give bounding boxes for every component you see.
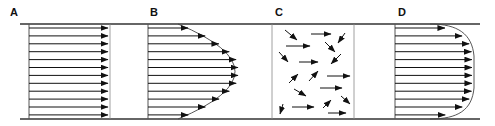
flow-arrow-icon — [294, 89, 306, 96]
flow-arrow-icon — [323, 100, 331, 108]
flow-arrow-icon — [285, 30, 297, 40]
panel-d-blunt-flow — [395, 24, 474, 119]
flow-arrow-icon — [325, 42, 335, 52]
panel-label-a: A — [10, 6, 18, 18]
panel-a-uniform-flow — [29, 24, 110, 119]
panel-label-c: C — [275, 6, 283, 18]
panel-label-b: B — [150, 6, 158, 18]
panel-label-d: D — [398, 6, 406, 18]
panel-c-turbulent-random — [272, 24, 354, 119]
panel-b-profile-curve — [178, 24, 235, 119]
flow-arrow-icon — [280, 104, 283, 114]
panel-b-parabolic-flow — [148, 24, 238, 119]
flow-arrow-icon — [331, 54, 341, 64]
flow-arrow-icon — [338, 33, 345, 43]
flow-arrow-icon — [309, 71, 318, 81]
flow-arrow-icon — [279, 52, 288, 62]
flow-profiles-diagram: A B C D — [0, 0, 495, 126]
panel-d-profile-curve — [430, 24, 474, 119]
flow-arrow-icon — [289, 74, 298, 83]
flow-arrow-icon — [341, 96, 350, 104]
